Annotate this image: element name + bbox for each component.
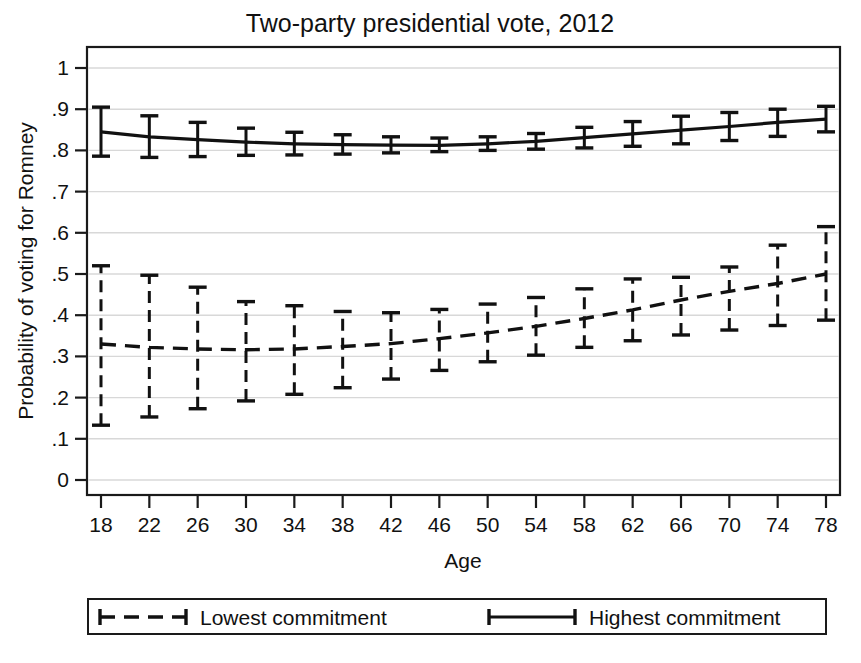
- x-tick-label: 50: [476, 513, 499, 536]
- legend-label-highest-commitment: Highest commitment: [589, 606, 781, 629]
- x-tick-label: 58: [573, 513, 596, 536]
- x-tick-label: 62: [621, 513, 644, 536]
- y-tick-label: .9: [51, 97, 69, 120]
- x-tick-label: 18: [89, 513, 112, 536]
- series-line: [101, 119, 826, 145]
- series-lowest-commitment: [92, 227, 835, 426]
- y-tick-label: .2: [51, 386, 69, 409]
- x-tick-label: 26: [186, 513, 209, 536]
- x-axis-label: Age: [444, 549, 481, 572]
- x-tick-label: 78: [814, 513, 837, 536]
- plot-frame: [87, 47, 840, 495]
- x-tick-label: 42: [379, 513, 402, 536]
- y-tick-label: .5: [51, 262, 69, 285]
- x-tick-label: 34: [283, 513, 307, 536]
- y-axis-ticks: 0.1.2.3.4.5.6.7.8.91: [51, 56, 87, 491]
- x-tick-label: 46: [428, 513, 451, 536]
- y-tick-label: .8: [51, 138, 69, 161]
- x-tick-label: 70: [718, 513, 741, 536]
- x-axis-ticks: 18222630343842465054586266707478: [89, 495, 837, 536]
- y-tick-label: .4: [51, 303, 69, 326]
- x-tick-label: 30: [234, 513, 257, 536]
- y-tick-label: 1: [57, 56, 69, 79]
- y-tick-label: .7: [51, 180, 69, 203]
- y-tick-label: 0: [57, 468, 69, 491]
- y-tick-label: .1: [51, 427, 69, 450]
- y-axis-label: Probability of voting for Romney: [14, 122, 37, 420]
- series-line: [101, 274, 826, 350]
- x-tick-label: 22: [138, 513, 161, 536]
- legend-label-lowest-commitment: Lowest commitment: [200, 606, 387, 629]
- x-tick-label: 66: [669, 513, 692, 536]
- chart-figure: Two-party presidential vote, 2012 0.1.2.…: [0, 0, 861, 663]
- gridlines: [88, 68, 839, 480]
- data-series-layer: [92, 106, 835, 425]
- x-tick-label: 54: [524, 513, 548, 536]
- y-tick-label: .3: [51, 344, 69, 367]
- x-tick-label: 74: [766, 513, 790, 536]
- y-tick-label: .6: [51, 221, 69, 244]
- chart-svg: Two-party presidential vote, 2012 0.1.2.…: [0, 0, 861, 663]
- chart-title: Two-party presidential vote, 2012: [246, 9, 614, 37]
- x-tick-label: 38: [331, 513, 354, 536]
